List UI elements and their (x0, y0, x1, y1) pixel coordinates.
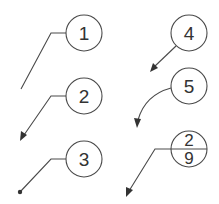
balloon-3: 3 (18, 141, 102, 194)
dot-terminator-icon (18, 190, 22, 194)
balloon-split: 2 9 (126, 131, 207, 198)
balloon-label-top: 2 (184, 131, 193, 150)
leader-line-1 (21, 33, 66, 89)
leader-line-2 (24, 96, 66, 135)
leader-line-3 (20, 159, 66, 192)
leader-curve-5 (138, 88, 171, 120)
balloon-label-2: 2 (79, 86, 90, 107)
balloon-label-5: 5 (184, 76, 195, 97)
balloon-5: 5 (134, 68, 207, 128)
balloon-label-1: 1 (79, 23, 90, 44)
arrowhead-icon (134, 118, 141, 128)
leader-line-split (129, 149, 171, 191)
balloon-diagram: 1 2 3 4 5 2 9 (0, 0, 219, 204)
balloon-label-3: 3 (79, 149, 90, 170)
balloon-label-bottom: 9 (184, 149, 193, 168)
balloon-4: 4 (150, 15, 207, 72)
balloon-label-4: 4 (184, 23, 195, 44)
arrowhead-icon (126, 187, 133, 197)
leader-line-4 (154, 46, 176, 67)
balloon-2: 2 (20, 78, 102, 141)
balloon-1: 1 (21, 15, 102, 89)
